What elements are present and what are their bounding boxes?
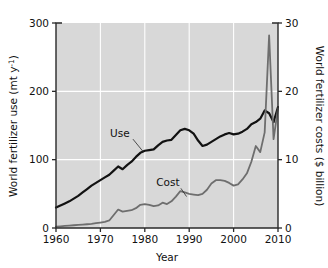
x-tick-label: 1980 — [131, 233, 158, 245]
y-axis-right-title-group: World fertilizer costs ($ billion) — [314, 46, 326, 207]
y-tick-label-left: 100 — [29, 153, 49, 165]
y-tick-label-left: 200 — [29, 85, 49, 97]
y-axis-left-title-group: World fertilizer use (mt y-1) — [7, 55, 20, 197]
y-axis-left-title: World fertilizer use (mt y — [7, 67, 19, 197]
svg-text:World fertilizer use (mt y-1): World fertilizer use (mt y-1) — [7, 55, 20, 197]
y-tick-label-right: 30 — [285, 17, 298, 29]
y-tick-label-right: 10 — [285, 153, 298, 165]
series-label-use: Use — [110, 127, 130, 139]
x-tick-label: 2010 — [265, 233, 292, 245]
x-axis-title: Year — [155, 251, 179, 263]
y-tick-label-right: 0 — [285, 222, 292, 234]
x-tick-label: 1990 — [176, 233, 203, 245]
series-label-cost: Cost — [156, 176, 179, 188]
y-axis-right-title: World fertilizer costs ($ billion) — [314, 46, 326, 207]
y-tick-label-left: 0 — [42, 222, 49, 234]
x-tick-label: 1970 — [87, 233, 114, 245]
fertilizer-use-and-cost-chart: 1960197019801990200020100100200300010203… — [0, 0, 328, 268]
x-tick-label: 1960 — [43, 233, 70, 245]
y-tick-label-right: 20 — [285, 85, 298, 97]
y-axis-left-title-tail: ) — [7, 55, 19, 59]
y-tick-label-left: 300 — [29, 17, 49, 29]
x-tick-label: 2000 — [220, 233, 247, 245]
plot-area-background — [56, 23, 278, 228]
